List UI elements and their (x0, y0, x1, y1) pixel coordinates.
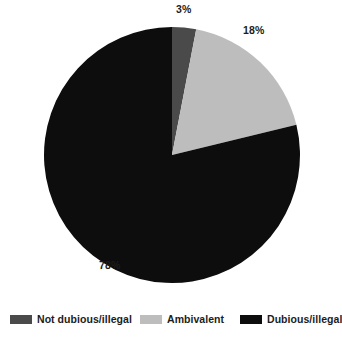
legend-swatch-dubious-illegal (240, 315, 262, 324)
legend-swatch-ambivalent (140, 315, 162, 324)
legend-item-not-dubious-illegal[interactable]: Not dubious/illegal (10, 313, 132, 325)
chart-legend: Not dubious/illegal Ambivalent Dubious/i… (0, 309, 342, 333)
pie-value-label-dubious-illegal: 78% (99, 259, 120, 271)
pie-chart-graphic (0, 0, 342, 300)
pie-value-label-ambivalent: 18% (243, 24, 264, 36)
legend-swatch-not-dubious-illegal (10, 315, 32, 324)
pie-slices (44, 27, 300, 283)
legend-item-ambivalent[interactable]: Ambivalent (140, 313, 224, 325)
legend-label-not-dubious-illegal: Not dubious/illegal (37, 313, 132, 325)
legend-item-dubious-illegal[interactable]: Dubious/illegal (240, 313, 342, 325)
pie-value-label-not-dubious-illegal: 3% (176, 3, 191, 15)
legend-label-ambivalent: Ambivalent (167, 313, 224, 325)
legend-label-dubious-illegal: Dubious/illegal (267, 313, 342, 325)
pie-chart-area: 3% 18% 78% (0, 0, 342, 300)
